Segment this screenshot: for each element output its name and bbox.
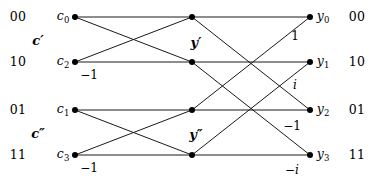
output-node-label-1: y1 [317, 55, 329, 68]
output-node-label-2: y2 [317, 103, 329, 116]
edge-weight-1: −1 [80, 162, 98, 174]
output-bit-label-0: 00 [349, 11, 366, 24]
edge-weight-0: −1 [80, 69, 98, 81]
output-node-label-0: y0 [317, 10, 329, 23]
vector-label-2: y′ [191, 36, 202, 49]
input-node-label-1: c2 [57, 55, 69, 68]
edge-weight-4: −1 [283, 120, 301, 132]
input-node-label-3: c3 [57, 148, 69, 161]
output-bit-label-2: 01 [349, 104, 366, 117]
output-node-3 [307, 152, 313, 158]
edge-weight-2: 1 [291, 30, 299, 42]
edge-weight-5: −i [285, 164, 299, 176]
output-bit-label-1: 10 [349, 56, 366, 69]
input-bit-label-0: 00 [10, 11, 27, 24]
middle-node-3 [189, 152, 195, 158]
middle-node-0 [189, 14, 195, 20]
output-node-0 [307, 14, 313, 20]
input-node-label-2: c1 [57, 103, 69, 116]
input-node-0 [72, 14, 78, 20]
input-bit-label-2: 01 [10, 104, 27, 117]
vector-label-3: y″ [189, 128, 202, 141]
output-node-label-3: y3 [317, 148, 329, 161]
edge-weight-3: i [293, 79, 297, 91]
middle-node-1 [189, 59, 195, 65]
input-bit-label-3: 11 [10, 149, 27, 162]
input-node-label-0: c0 [57, 10, 69, 23]
input-node-3 [72, 152, 78, 158]
output-bit-label-3: 11 [349, 149, 366, 162]
vector-label-0: c′ [32, 34, 43, 47]
vector-label-1: c″ [31, 127, 45, 140]
input-node-1 [72, 59, 78, 65]
middle-node-2 [189, 107, 195, 113]
output-node-2 [307, 107, 313, 113]
output-node-1 [307, 59, 313, 65]
input-bit-label-1: 10 [10, 56, 27, 69]
butterfly-diagram: 0010011100100111c0c2c1c3y0y1y2y3c′c″y′y″… [0, 0, 379, 182]
input-node-2 [72, 107, 78, 113]
